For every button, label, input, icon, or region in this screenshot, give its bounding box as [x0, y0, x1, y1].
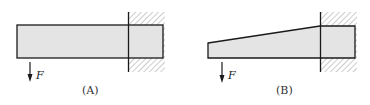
figure-caption: (B) — [276, 84, 293, 97]
cantilever-diagrams: F (A) F (B) — [0, 0, 370, 105]
load-label: F — [227, 69, 236, 82]
figure-caption: (A) — [82, 84, 99, 97]
tapered-beam — [208, 26, 355, 58]
figure-a: F (A) — [17, 12, 165, 97]
load-arrow-icon — [28, 62, 33, 82]
figure-b: F (B) — [208, 12, 357, 97]
load-label: F — [35, 69, 44, 82]
load-arrow-icon — [220, 62, 225, 83]
rectangular-beam — [17, 25, 163, 58]
